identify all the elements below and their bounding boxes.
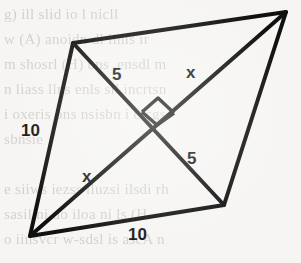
label-lower-right-half-diagonal: 5 xyxy=(187,150,196,167)
right-angle-square xyxy=(142,98,174,113)
label-lower-left-half-diagonal: x xyxy=(82,168,91,185)
label-left-side: 10 xyxy=(21,122,40,139)
figure-page: g) ill slid io l nicll w (A) anoidn dl l… xyxy=(0,0,301,263)
label-upper-left-half-diagonal: 5 xyxy=(112,66,121,83)
rhombus-diagram xyxy=(0,0,301,263)
label-bottom-side: 10 xyxy=(128,226,147,243)
label-upper-right-half-diagonal: x xyxy=(186,64,195,81)
